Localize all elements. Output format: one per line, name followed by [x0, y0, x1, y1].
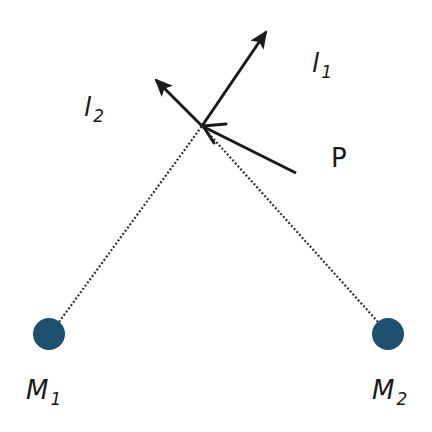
mass-m1-label-main: M [26, 375, 48, 405]
vector-l1-label-main: l [312, 48, 319, 78]
point-p-label: P [331, 145, 347, 171]
diagram-svg [0, 0, 432, 432]
vector-l1-arrow [202, 32, 266, 126]
mass-m1-label: M1 [26, 377, 61, 408]
dotted-line-m1 [59, 126, 202, 322]
incoming-p-arrow [204, 127, 296, 173]
dotted-line-m2 [202, 126, 378, 322]
vector-l2-label-main: l [84, 92, 91, 122]
vector-l1-label: l1 [312, 50, 332, 81]
diagram-canvas: l1 l2 P M1 M2 [0, 0, 432, 432]
mass-m1-dot [33, 318, 65, 350]
mass-m1-label-subscript: 1 [50, 389, 61, 409]
mass-m2-label: M2 [372, 377, 407, 408]
vector-l2-label-subscript: 2 [93, 106, 104, 126]
point-p-text: P [331, 143, 347, 173]
mass-m2-label-subscript: 2 [396, 389, 407, 409]
mass-m2-label-main: M [372, 375, 394, 405]
vector-l1-label-subscript: 1 [321, 62, 332, 82]
vector-l2-arrow [156, 80, 202, 126]
vector-l2-label: l2 [84, 94, 104, 125]
mass-m2-dot [372, 318, 404, 350]
